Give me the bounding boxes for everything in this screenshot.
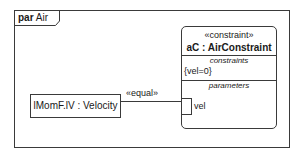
constraints-compartment-title: constraints (182, 56, 276, 65)
frame-name: Air (36, 12, 48, 23)
part-label: lMomF.lV : Velocity (31, 100, 120, 111)
frame-heading: par Air (18, 12, 48, 23)
parameter-label: vel (194, 101, 206, 111)
binding-connector[interactable] (121, 101, 181, 102)
constraint-stereotype: «constraint» (182, 30, 276, 40)
frame-kind: par (18, 12, 34, 23)
part-property[interactable]: lMomF.lV : Velocity (30, 94, 121, 118)
connector-stereotype: «equal» (126, 88, 158, 98)
constraint-expression: {vel=0} (184, 66, 212, 76)
frame-tab: par Air (14, 10, 60, 26)
constraint-property[interactable]: «constraint» aC : AirConstraint constrai… (181, 26, 277, 129)
parameter-port-vel[interactable] (181, 98, 192, 115)
parameters-compartment-title: parameters (182, 81, 276, 90)
constraint-name: aC : AirConstraint (182, 42, 276, 53)
